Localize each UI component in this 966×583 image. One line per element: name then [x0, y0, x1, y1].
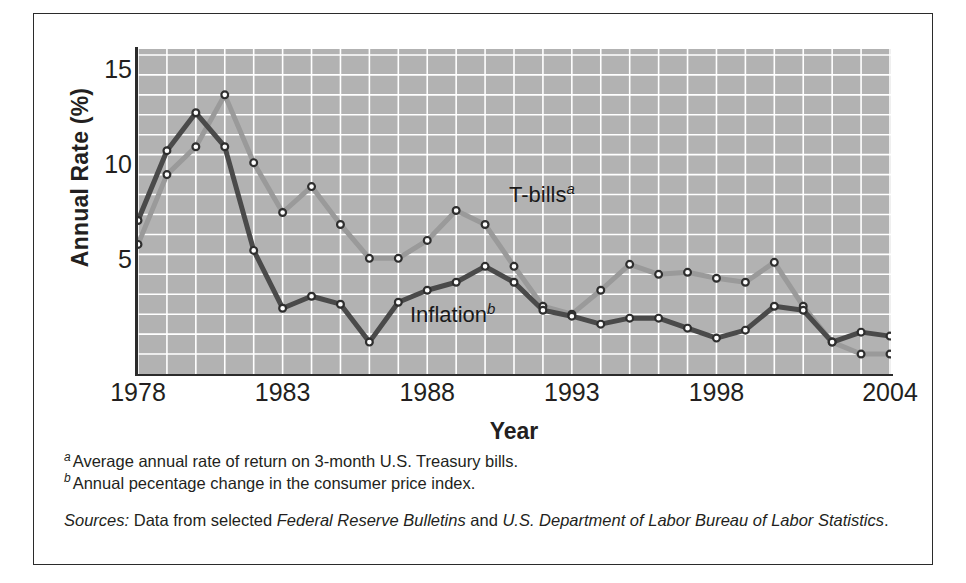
footnote-a: aAverage annual rate of return on 3-mont…	[64, 451, 909, 473]
footnote-b-text: Annual pecentage change in the consumer …	[73, 474, 476, 492]
x-tick-2004: 2004	[862, 380, 918, 405]
plot-area: T-billsa Inflationb	[137, 49, 891, 374]
x-axis-title: Year	[137, 418, 891, 445]
x-axis-line	[135, 374, 893, 377]
footnote-a-marker: a	[64, 450, 71, 464]
footnote-b: bAnnual pecentage change in the consumer…	[64, 473, 909, 495]
plot-region: T-billsa Inflationb	[137, 49, 891, 374]
y-axis-title: Annual Rate (%)	[67, 68, 94, 288]
footnote-a-text: Average annual rate of return on 3-month…	[73, 452, 518, 470]
series-label-tbills-text: T-bills	[509, 182, 566, 207]
series-label-inflation: Inflationb	[410, 304, 495, 326]
sources-publication-2: U.S. Department of Labor Bureau of Labor…	[502, 511, 884, 529]
figure-frame: 15 10 5 Annual Rate (%) T-billsa Inflati…	[33, 13, 933, 565]
x-tick-1993: 1993	[544, 380, 600, 405]
sources-part1: Data from selected	[129, 511, 277, 529]
series-label-inflation-marker: b	[487, 300, 495, 317]
sources-line: Sources: Data from selected Federal Rese…	[64, 511, 909, 530]
footnote-b-marker: b	[64, 471, 71, 485]
x-axis-tick-labels: 197819831988199319982004	[137, 380, 891, 414]
series-annotation-layer: T-billsa Inflationb	[137, 49, 891, 374]
sources-lead: Sources:	[64, 511, 129, 529]
series-label-inflation-text: Inflation	[410, 302, 487, 327]
sources-part3: .	[884, 511, 889, 529]
footnotes-block: aAverage annual rate of return on 3-mont…	[64, 451, 909, 530]
series-label-tbills-marker: a	[566, 180, 574, 197]
series-label-tbills: T-billsa	[509, 184, 575, 206]
y-axis-line	[135, 47, 138, 376]
sources-publication-1: Federal Reserve Bulletins	[277, 511, 466, 529]
x-tick-1983: 1983	[255, 380, 311, 405]
x-tick-1978: 1978	[110, 380, 166, 405]
sources-part2: and	[466, 511, 503, 529]
x-tick-1988: 1988	[399, 380, 455, 405]
x-tick-1998: 1998	[689, 380, 745, 405]
